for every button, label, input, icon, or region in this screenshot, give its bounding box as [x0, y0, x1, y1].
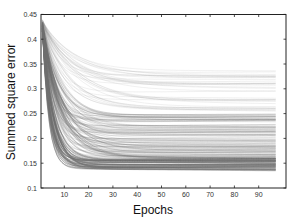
x-axis-title: Epochs: [133, 203, 173, 217]
x-tick-label: 10: [60, 191, 68, 198]
error-curve: [42, 20, 275, 78]
x-tick-label: 50: [158, 191, 166, 198]
y-tick-label: 0.3: [27, 85, 37, 92]
error-curve: [42, 21, 275, 76]
x-tick-label: 20: [85, 191, 93, 198]
error-curves: [42, 19, 275, 170]
y-axis-title: Summed square error: [4, 44, 18, 161]
training-error-chart: 102030405060708090 0.10.150.20.250.30.35…: [0, 0, 296, 223]
x-tick-label: 30: [109, 191, 117, 198]
y-tick-label: 0.25: [23, 110, 37, 117]
error-curve: [42, 20, 275, 110]
error-curve: [42, 25, 275, 83]
y-tick-label: 0.2: [27, 135, 37, 142]
x-tick-label: 60: [182, 191, 190, 198]
y-tick-label: 0.4: [27, 36, 37, 43]
error-curve: [42, 21, 275, 89]
error-curve: [42, 24, 275, 100]
y-tick-label: 0.15: [23, 160, 37, 167]
y-tick-label: 0.35: [23, 61, 37, 68]
error-curve: [42, 22, 275, 77]
error-curve: [42, 23, 275, 127]
x-tick-label: 80: [231, 191, 239, 198]
error-curve: [42, 21, 275, 75]
error-curve: [42, 22, 275, 153]
y-tick-label: 0.45: [23, 11, 37, 18]
x-tick-label: 40: [133, 191, 141, 198]
x-tick-label: 90: [255, 191, 263, 198]
error-curve: [42, 22, 275, 108]
y-tick-label: 0.1: [27, 185, 37, 192]
x-tick-label: 70: [206, 191, 214, 198]
